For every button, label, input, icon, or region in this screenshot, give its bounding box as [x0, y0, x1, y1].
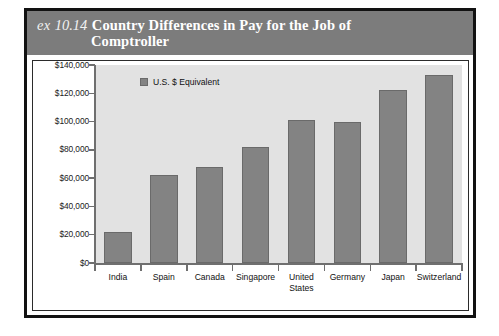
- x-axis-label-switzerland: Switzerland: [416, 272, 462, 283]
- x-axis-tick: [324, 265, 326, 271]
- x-axis-tick: [140, 265, 142, 271]
- y-axis-tick: [89, 64, 95, 66]
- bar-spain: [150, 175, 178, 263]
- x-axis-labels: IndiaSpainCanadaSingaporeUnitedStatesGer…: [95, 272, 462, 310]
- legend-label: U.S. $ Equivalent: [153, 77, 219, 87]
- chart-legend: U.S. $ Equivalent: [140, 77, 219, 87]
- exhibit-container: ex 10.14 Country Differences in Pay for …: [24, 8, 476, 318]
- y-axis-tick-label: $40,000: [35, 201, 89, 211]
- y-axis-tick-label: $100,000: [35, 116, 89, 126]
- x-axis-tick: [278, 265, 280, 271]
- exhibit-title-line-1: Country Differences in Pay for the Job o…: [92, 17, 351, 33]
- y-axis-tick-label: $20,000: [35, 229, 89, 239]
- exhibit-caption-first-line: ex 10.14 Country Differences in Pay for …: [37, 16, 463, 34]
- exhibit-number: 10.14: [55, 17, 88, 33]
- bar-germany: [334, 122, 362, 263]
- x-axis-label-united-states: UnitedStates: [279, 272, 325, 293]
- x-axis-tick-origin: [94, 265, 96, 271]
- bar-switzerland: [425, 75, 453, 263]
- x-axis-label-line: Germany: [324, 272, 370, 283]
- bar-japan: [379, 90, 407, 263]
- bar-india: [104, 232, 132, 263]
- plot-area: U.S. $ Equivalent: [95, 65, 462, 263]
- x-axis-label-line: States: [279, 283, 325, 294]
- x-axis-label-line: Canada: [187, 272, 233, 283]
- x-axis-label-canada: Canada: [187, 272, 233, 283]
- y-axis-tick: [89, 206, 95, 208]
- x-axis-label-line: Spain: [141, 272, 187, 283]
- y-axis-tick-label: $0: [35, 258, 89, 268]
- exhibit-label-prefix: ex: [37, 17, 50, 33]
- x-axis-tick: [232, 265, 234, 271]
- exhibit-title-line-2: Comptroller: [91, 33, 463, 50]
- y-axis-tick: [89, 177, 95, 179]
- exhibit-caption-band: ex 10.14 Country Differences in Pay for …: [27, 11, 473, 55]
- x-axis-tick: [461, 265, 463, 271]
- x-axis-label-germany: Germany: [324, 272, 370, 283]
- x-axis-label-singapore: Singapore: [233, 272, 279, 283]
- x-axis-label-japan: Japan: [370, 272, 416, 283]
- x-axis-tick: [415, 265, 417, 271]
- y-axis-tick: [89, 262, 95, 264]
- y-axis-tick: [89, 234, 95, 236]
- y-axis-tick: [89, 121, 95, 123]
- x-axis-tick: [370, 265, 372, 271]
- bar-canada: [196, 167, 224, 263]
- y-axis-labels: $0$20,000$40,000$60,000$80,000$100,000$1…: [33, 61, 89, 271]
- y-axis-tick-label: $80,000: [35, 144, 89, 154]
- y-axis-tick-label: $140,000: [35, 60, 89, 70]
- y-axis-tick-label: $120,000: [35, 88, 89, 98]
- x-axis-label-line: United: [279, 272, 325, 283]
- legend-swatch-icon: [140, 78, 148, 86]
- bar-singapore: [242, 147, 270, 263]
- y-axis-tick: [89, 93, 95, 95]
- x-axis-tick: [186, 265, 188, 271]
- y-axis-tick: [89, 149, 95, 151]
- bar-united-states: [288, 120, 316, 263]
- x-axis-label-spain: Spain: [141, 272, 187, 283]
- chart-frame: $0$20,000$40,000$60,000$80,000$100,000$1…: [32, 60, 469, 311]
- x-axis-label-line: Switzerland: [416, 272, 462, 283]
- y-axis-tick-label: $60,000: [35, 173, 89, 183]
- x-axis-label-line: Japan: [370, 272, 416, 283]
- x-axis-label-india: India: [95, 272, 141, 283]
- chart-region: $0$20,000$40,000$60,000$80,000$100,000$1…: [27, 55, 473, 315]
- x-axis-label-line: Singapore: [233, 272, 279, 283]
- x-axis-label-line: India: [95, 272, 141, 283]
